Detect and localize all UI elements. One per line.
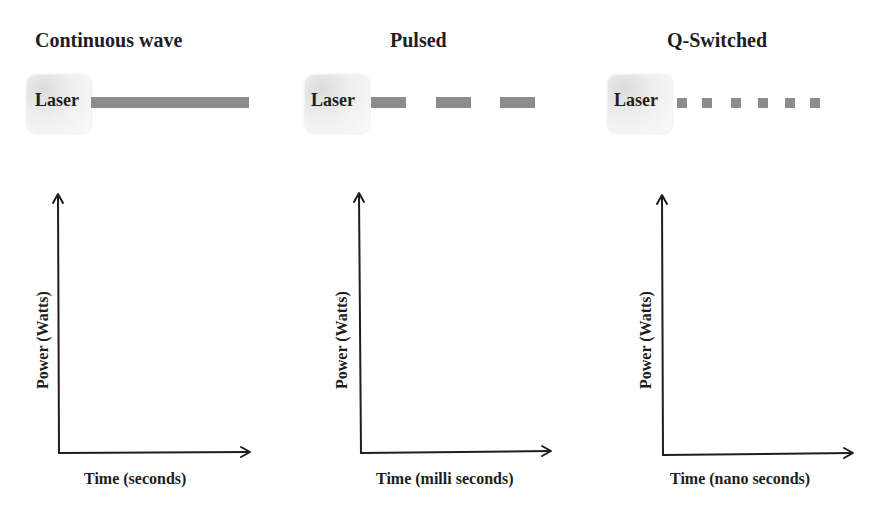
x-axis	[361, 451, 550, 453]
y-axis	[662, 196, 663, 455]
y-axis-label: Power (Watts)	[34, 291, 52, 389]
y-axis-label: Power (Watts)	[333, 291, 351, 389]
x-axis	[663, 453, 852, 455]
axes-layer	[0, 0, 878, 515]
axis-pulsed	[354, 193, 551, 456]
axis-continuous-wave	[53, 194, 250, 457]
y-axis-label: Power (Watts)	[637, 291, 655, 389]
y-axis	[58, 195, 59, 453]
x-axis-label: Time (nano seconds)	[670, 470, 810, 488]
axis-q-switched	[657, 195, 853, 458]
x-axis	[59, 452, 249, 453]
y-axis	[359, 194, 361, 453]
x-axis-label: Time (seconds)	[84, 470, 186, 488]
x-axis-label: Time (milli seconds)	[376, 470, 513, 488]
